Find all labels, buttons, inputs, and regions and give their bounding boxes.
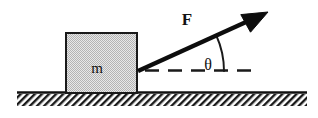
force-arrow-shaft — [138, 20, 251, 71]
angle-arc — [216, 36, 224, 72]
angle-label: θ — [204, 56, 212, 73]
ground-hatch-fill — [17, 94, 307, 106]
force-arrow-head — [241, 12, 268, 32]
force-arrow — [138, 12, 268, 71]
physics-diagram: m F θ — [0, 0, 318, 118]
mass-label: m — [91, 60, 103, 76]
diagram-canvas: m F θ — [0, 0, 318, 118]
ground-hatching — [17, 94, 307, 106]
force-label: F — [182, 10, 192, 29]
